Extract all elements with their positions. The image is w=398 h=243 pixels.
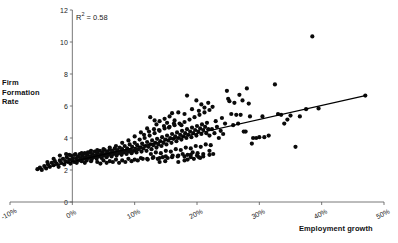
data-point xyxy=(202,106,206,110)
data-point xyxy=(149,152,153,156)
data-point xyxy=(201,154,205,158)
data-point xyxy=(245,86,249,90)
data-point xyxy=(151,156,155,160)
data-point xyxy=(159,151,163,155)
data-point xyxy=(197,109,201,113)
y-tick-label: 6 xyxy=(64,103,68,110)
data-point xyxy=(250,142,254,146)
x-tick-label: 30% xyxy=(250,207,266,220)
data-point xyxy=(149,147,153,151)
data-point xyxy=(45,160,49,164)
data-point xyxy=(199,102,203,106)
data-point xyxy=(158,160,162,164)
data-point xyxy=(138,138,142,142)
data-point xyxy=(139,130,143,134)
data-points-layer xyxy=(35,34,367,172)
data-point xyxy=(157,128,161,132)
x-tick-label: 20% xyxy=(188,207,204,220)
data-point xyxy=(179,148,183,152)
x-tick-label: 50% xyxy=(375,207,391,220)
data-point xyxy=(86,150,90,154)
data-point xyxy=(148,134,152,138)
data-point xyxy=(234,113,238,117)
data-point xyxy=(227,99,231,103)
data-point xyxy=(167,126,171,130)
data-point xyxy=(202,110,206,114)
data-point xyxy=(237,93,241,97)
y-tick-label: 2 xyxy=(64,167,68,174)
data-point xyxy=(141,157,145,161)
data-point xyxy=(136,158,140,162)
data-point xyxy=(194,98,198,102)
data-point xyxy=(153,118,157,122)
data-point xyxy=(176,154,180,158)
data-point xyxy=(170,111,174,115)
data-point xyxy=(285,118,289,122)
data-point xyxy=(217,136,221,140)
x-tick-label: 10% xyxy=(126,207,142,220)
r-squared-annotation: R2 = 0.58 xyxy=(76,11,108,22)
data-point xyxy=(64,152,68,156)
data-point xyxy=(95,148,99,152)
data-point xyxy=(123,160,127,164)
data-point xyxy=(176,160,180,164)
x-tick-label: -10% xyxy=(0,207,18,221)
data-point xyxy=(206,101,210,105)
data-point xyxy=(310,34,314,38)
data-point xyxy=(80,151,84,155)
data-point xyxy=(120,141,124,145)
data-point xyxy=(161,155,165,159)
data-point xyxy=(207,108,211,112)
data-point xyxy=(194,144,198,148)
data-point xyxy=(214,119,218,123)
r-squared-value: = 0.58 xyxy=(84,13,107,22)
data-point xyxy=(273,82,277,86)
data-point xyxy=(171,154,175,158)
data-point xyxy=(221,132,225,136)
data-point xyxy=(126,138,130,142)
data-point xyxy=(111,160,115,164)
data-point xyxy=(58,154,62,158)
data-point xyxy=(244,130,248,134)
data-point xyxy=(129,159,133,163)
data-point xyxy=(89,159,93,163)
y-tick-label: 4 xyxy=(64,135,68,142)
data-point xyxy=(114,144,118,148)
data-point xyxy=(133,134,137,138)
y-axis: 024681012 xyxy=(60,7,72,206)
data-point xyxy=(182,112,186,116)
data-point xyxy=(117,161,121,165)
data-point xyxy=(210,105,214,109)
data-point xyxy=(163,159,167,163)
y-tick-label: 8 xyxy=(64,71,68,78)
data-point xyxy=(145,126,149,130)
data-point xyxy=(240,98,244,102)
x-axis-label: Employment growth xyxy=(299,224,373,233)
data-point xyxy=(83,161,87,165)
data-point xyxy=(186,158,190,162)
data-point xyxy=(190,107,194,111)
y-axis-label-line-3: Rate xyxy=(2,97,40,107)
data-point xyxy=(182,120,186,124)
data-point xyxy=(239,113,243,117)
data-point xyxy=(108,146,112,150)
plot-canvas: 024681012 -10%0%10%20%30%40%50% xyxy=(0,0,398,243)
data-point xyxy=(165,121,169,125)
data-point xyxy=(148,115,152,119)
data-point xyxy=(73,152,77,156)
data-point xyxy=(223,122,227,126)
y-axis-label-line-1: Firm xyxy=(2,78,40,88)
data-point xyxy=(209,143,213,147)
data-point xyxy=(189,146,193,150)
data-point xyxy=(212,131,216,135)
data-point xyxy=(98,162,102,166)
data-point xyxy=(144,149,148,153)
data-point xyxy=(207,153,211,157)
data-point xyxy=(162,124,166,128)
data-point xyxy=(204,142,208,146)
data-point xyxy=(191,150,195,154)
data-point xyxy=(262,135,266,139)
data-point xyxy=(179,123,183,127)
y-tick-label: 10 xyxy=(60,39,68,46)
data-point xyxy=(257,135,261,139)
